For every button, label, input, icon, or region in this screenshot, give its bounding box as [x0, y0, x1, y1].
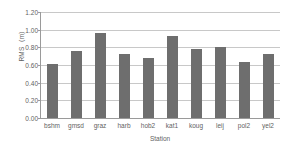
- y-tick-label: 0.20: [14, 97, 38, 104]
- bar-slot: [89, 12, 113, 118]
- y-tick-label: 1.20: [14, 9, 38, 16]
- bar: [71, 51, 82, 118]
- x-tick-label: hob2: [136, 121, 160, 133]
- x-tick-label: leij: [208, 121, 232, 133]
- bar: [167, 36, 178, 118]
- bar-slot: [41, 12, 65, 118]
- y-tick-label: 0.60: [14, 62, 38, 69]
- x-tick-label: koug: [184, 121, 208, 133]
- bar: [143, 58, 154, 118]
- bar-series: [41, 12, 280, 118]
- bar-slot: [113, 12, 137, 118]
- gridline: [41, 118, 280, 119]
- bar-slot: [137, 12, 161, 118]
- bar-slot: [256, 12, 280, 118]
- bar: [95, 33, 106, 118]
- bar: [119, 54, 130, 118]
- bar-slot: [232, 12, 256, 118]
- x-tick-label: bshm: [40, 121, 64, 133]
- bar-slot: [184, 12, 208, 118]
- bar-slot: [65, 12, 89, 118]
- y-tick-label: 0.80: [14, 44, 38, 51]
- x-tick-label: kat1: [160, 121, 184, 133]
- bar-slot: [208, 12, 232, 118]
- x-tick-label: graz: [88, 121, 112, 133]
- x-axis-tick-labels: bshmgmsdgrazharbhob2kat1kougleijpol2yel2: [40, 121, 280, 133]
- bar: [191, 49, 202, 118]
- bar-chart: RMS（m） 0.000.200.400.600.801.001.20 bshm…: [0, 0, 286, 155]
- x-tick-label: pol2: [232, 121, 256, 133]
- x-tick-label: gmsd: [64, 121, 88, 133]
- bar: [263, 54, 274, 118]
- bar-slot: [161, 12, 185, 118]
- y-tick-mark: [38, 118, 41, 119]
- y-tick-label: 1.00: [14, 26, 38, 33]
- y-tick-label: 0.00: [14, 115, 38, 122]
- x-axis-title: Station: [40, 134, 280, 143]
- y-axis-tick-labels: 0.000.200.400.600.801.001.20: [14, 12, 38, 118]
- y-tick-label: 0.40: [14, 79, 38, 86]
- bar: [47, 64, 58, 118]
- bar: [215, 47, 226, 118]
- x-tick-label: yel2: [256, 121, 280, 133]
- x-tick-label: harb: [112, 121, 136, 133]
- plot-area: [40, 12, 280, 118]
- bar: [239, 62, 250, 118]
